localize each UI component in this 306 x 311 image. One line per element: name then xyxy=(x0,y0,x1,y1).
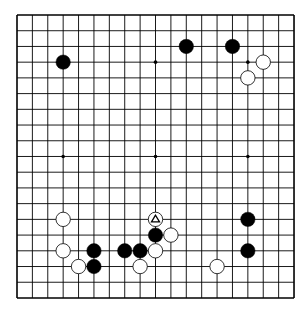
black-stone[interactable] xyxy=(148,228,162,242)
black-stone[interactable] xyxy=(225,39,239,53)
black-stone[interactable] xyxy=(241,244,255,258)
black-stone[interactable] xyxy=(241,212,255,226)
white-stone[interactable] xyxy=(210,259,224,273)
star-point xyxy=(154,60,158,64)
white-stone[interactable] xyxy=(56,244,70,258)
black-stone[interactable] xyxy=(56,55,70,69)
white-stone[interactable] xyxy=(164,228,178,242)
black-stone[interactable] xyxy=(87,244,101,258)
star-point xyxy=(246,155,250,159)
star-point xyxy=(154,155,158,159)
black-stone[interactable] xyxy=(179,39,193,53)
black-stone[interactable] xyxy=(87,259,101,273)
white-stone[interactable] xyxy=(71,259,85,273)
white-stone[interactable] xyxy=(256,55,270,69)
white-stone[interactable] xyxy=(241,71,255,85)
black-stone[interactable] xyxy=(133,244,147,258)
white-stone[interactable] xyxy=(133,259,147,273)
star-point xyxy=(61,155,65,159)
white-stone[interactable] xyxy=(148,244,162,258)
black-stone[interactable] xyxy=(118,244,132,258)
go-board[interactable] xyxy=(0,0,306,311)
white-stone[interactable] xyxy=(56,212,70,226)
go-board-canvas[interactable] xyxy=(0,0,306,311)
star-point xyxy=(246,60,250,64)
white-stone[interactable] xyxy=(148,212,162,226)
